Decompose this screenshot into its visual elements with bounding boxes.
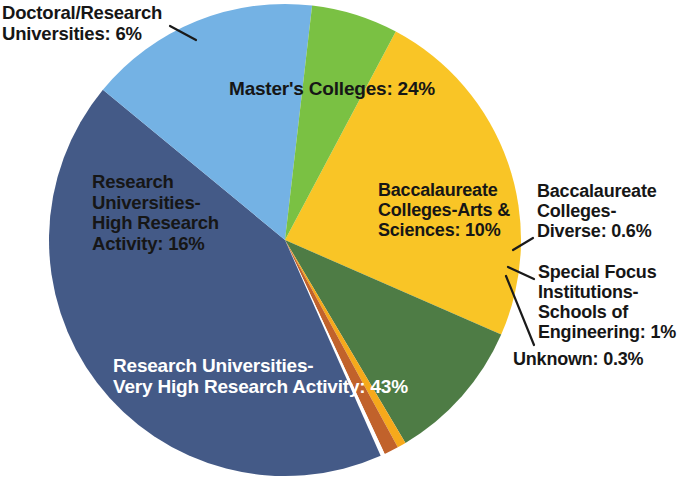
slice-label-masters-colleges: Master's Colleges: 24%	[229, 78, 435, 99]
pie-chart-figure: Doctoral/Research Universities: 6% Maste…	[0, 0, 700, 479]
slice-label-research-universities-high: Research Universities- High Research Act…	[92, 172, 219, 255]
slice-label-unknown: Unknown: 0.3%	[513, 349, 643, 369]
slice-label-research-universities-very-high: Research Universities- Very High Researc…	[113, 355, 408, 398]
slice-label-baccalaureate-colleges-diverse: Baccalaureate Colleges- Diverse: 0.6%	[537, 181, 656, 241]
slice-label-doctoral-research-universities: Doctoral/Research Universities: 6%	[2, 3, 162, 44]
slice-label-baccalaureate-colleges-arts-sciences: Baccalaureate Colleges-Arts & Sciences: …	[378, 180, 510, 240]
slice-label-special-focus-institutions: Special Focus Institutions- Schools of E…	[538, 262, 676, 343]
